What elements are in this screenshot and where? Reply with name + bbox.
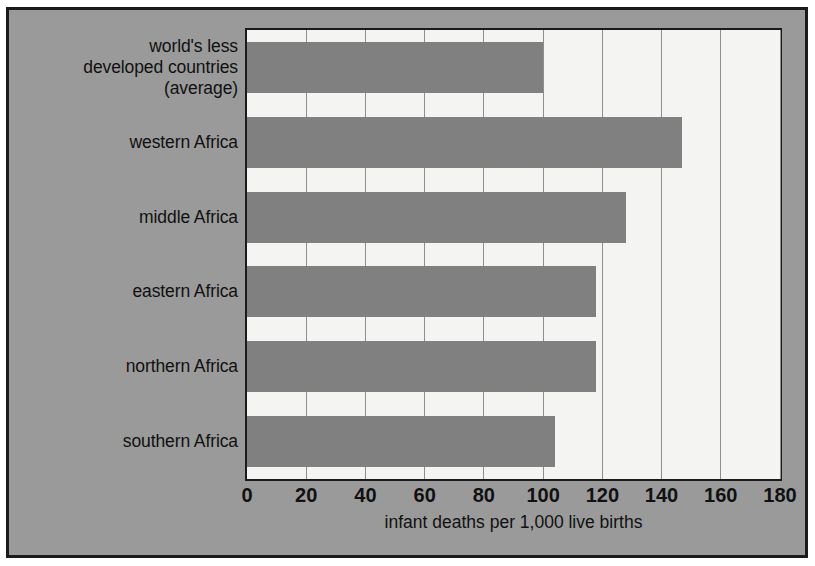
category-label-line: (average) xyxy=(13,78,238,99)
gridline-20 xyxy=(306,30,307,479)
category-label-column: world's lessdeveloped countries(average)… xyxy=(9,10,246,555)
gridline-40 xyxy=(365,30,366,479)
gridline-80 xyxy=(483,30,484,479)
bar xyxy=(247,416,555,467)
x-axis-ticks: 020406080100120140160180 xyxy=(245,483,782,513)
category-label-line: eastern Africa xyxy=(13,281,238,302)
category-label: middle Africa xyxy=(13,207,238,228)
x-tick-label: 160 xyxy=(704,483,737,507)
x-tick-label: 0 xyxy=(241,483,252,507)
category-label-line: middle Africa xyxy=(13,207,238,228)
bar xyxy=(247,42,543,93)
gridline-120 xyxy=(602,30,603,479)
x-tick-label: 20 xyxy=(295,483,317,507)
gridline-140 xyxy=(661,30,662,479)
category-label: southern Africa xyxy=(13,431,238,452)
plot-inner xyxy=(247,30,780,479)
x-tick-label: 140 xyxy=(645,483,678,507)
x-tick-label: 40 xyxy=(354,483,376,507)
category-label-line: developed countries xyxy=(13,57,238,78)
gridline-100 xyxy=(543,30,544,479)
category-label-line: southern Africa xyxy=(13,431,238,452)
x-axis-title: infant deaths per 1,000 live births xyxy=(245,512,782,533)
plot-area xyxy=(245,28,782,481)
x-tick-label: 180 xyxy=(763,483,796,507)
category-label-line: northern Africa xyxy=(13,356,238,377)
bar xyxy=(247,117,682,168)
category-label: western Africa xyxy=(13,132,238,153)
gridline-160 xyxy=(720,30,721,479)
bar xyxy=(247,341,596,392)
gridline-180 xyxy=(780,30,781,479)
x-tick-label: 100 xyxy=(526,483,559,507)
x-tick-label: 120 xyxy=(586,483,619,507)
bar xyxy=(247,266,596,317)
category-label: eastern Africa xyxy=(13,281,238,302)
category-label-line: world's less xyxy=(13,36,238,57)
bar xyxy=(247,192,626,243)
chart-figure: world's lessdeveloped countries(average)… xyxy=(0,0,815,566)
x-tick-label: 60 xyxy=(414,483,436,507)
category-label: northern Africa xyxy=(13,356,238,377)
x-tick-label: 80 xyxy=(473,483,495,507)
category-label-line: western Africa xyxy=(13,132,238,153)
gridline-60 xyxy=(424,30,425,479)
category-label: world's lessdeveloped countries(average) xyxy=(13,36,238,99)
